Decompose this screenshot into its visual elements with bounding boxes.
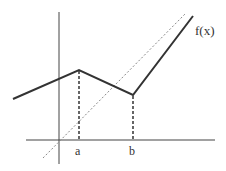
function-label: f(x) [195,24,215,37]
label-a: a [75,145,80,157]
label-b: b [129,145,135,157]
function-curve [13,16,193,99]
diagram-canvas: f(x) a b [0,0,226,171]
diagram-svg [0,0,226,171]
